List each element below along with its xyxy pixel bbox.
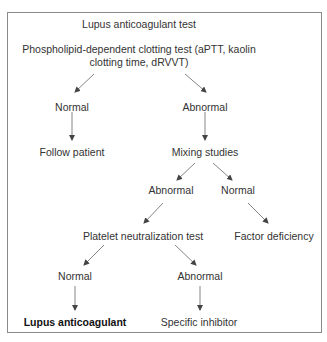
node-root-line2: clotting time, dRVVT) [89,56,188,68]
node-mixing-normal: Normal [221,184,255,196]
node-pnt-normal: Normal [58,270,92,282]
node-root-normal: Normal [55,101,89,113]
node-follow-patient: Follow patient [40,146,105,158]
node-root-abnormal: Abnormal [183,101,228,113]
node-lupus-anticoagulant: Lupus anticoagulant [24,316,127,328]
arrow-root-to-normal [75,74,94,92]
node-mixing-studies: Mixing studies [172,146,239,158]
node-specific-inhibitor: Specific inhibitor [161,316,237,328]
arrow-pnt-to-normal [84,245,104,265]
node-platelet-neutralization: Platelet neutralization test [83,230,203,242]
node-mixing-abnormal: Abnormal [149,184,194,196]
diagram-title: Lupus anticoagulant test [82,18,196,30]
node-factor-deficiency: Factor deficiency [234,230,313,242]
node-root-line1: Phospholipid-dependent clotting test (aP… [22,43,255,55]
arrow-abnormal-to-pnt [144,203,163,223]
arrow-root-to-abnormal [185,74,206,92]
arrow-mixing-to-abnormal [177,163,195,180]
arrow-pnt-to-abnormal [175,245,196,265]
arrow-normal-to-factor [248,203,268,223]
arrow-mixing-to-normal [213,163,232,180]
node-pnt-abnormal: Abnormal [178,270,223,282]
